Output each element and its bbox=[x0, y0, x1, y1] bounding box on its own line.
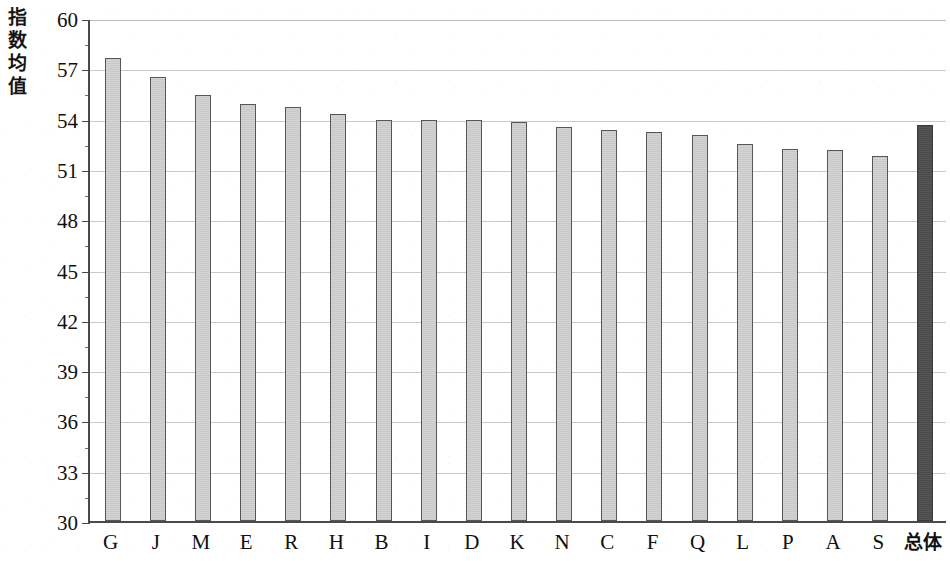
bar bbox=[601, 130, 617, 521]
bar bbox=[556, 127, 572, 521]
bar bbox=[105, 58, 121, 521]
bar bbox=[150, 77, 166, 521]
bar bbox=[917, 125, 933, 521]
bar bbox=[195, 95, 211, 521]
y-axis-tick-label: 36 bbox=[36, 412, 78, 433]
bar bbox=[285, 107, 301, 521]
bar bbox=[240, 104, 256, 521]
bar bbox=[330, 114, 346, 521]
bar bbox=[782, 149, 798, 521]
x-axis-tick-label: 总体 bbox=[904, 529, 942, 555]
x-axis-tick-label: Q bbox=[690, 529, 705, 555]
plot-area bbox=[88, 20, 946, 523]
bar bbox=[692, 135, 708, 521]
bar bbox=[511, 122, 527, 521]
bar bbox=[466, 120, 482, 521]
y-axis-tick-label: 54 bbox=[36, 110, 78, 131]
x-axis-tick-label: N bbox=[555, 529, 570, 555]
x-axis-tick-label: E bbox=[240, 529, 253, 555]
bar-chart-figure: 指 数 均 值 6057545148454239363330 GJMERHBID… bbox=[0, 0, 950, 561]
y-axis-tick-label: 51 bbox=[36, 160, 78, 181]
x-axis-tick-label: G bbox=[103, 529, 118, 555]
y-axis-tick-label: 45 bbox=[36, 261, 78, 282]
y-axis-tick-label: 30 bbox=[36, 513, 78, 534]
bar bbox=[872, 156, 888, 522]
x-axis-tick-label: L bbox=[736, 529, 749, 555]
x-axis-tick-label: D bbox=[464, 529, 479, 555]
y-axis-tick-label: 42 bbox=[36, 311, 78, 332]
y-axis-tick bbox=[82, 523, 90, 524]
bar bbox=[421, 120, 437, 521]
y-axis-title: 指 数 均 值 bbox=[2, 6, 32, 98]
y-axis-tick-label: 48 bbox=[36, 211, 78, 232]
x-axis-tick-label: S bbox=[872, 529, 884, 555]
x-axis-tick-label: I bbox=[423, 529, 430, 555]
bar bbox=[737, 144, 753, 521]
x-axis-tick-label: A bbox=[826, 529, 841, 555]
y-axis-tick-labels: 6057545148454239363330 bbox=[38, 0, 82, 561]
bar bbox=[827, 150, 843, 521]
x-axis-tick-label: F bbox=[647, 529, 659, 555]
y-axis-tick-label: 39 bbox=[36, 362, 78, 383]
y-axis-tick-label: 57 bbox=[36, 60, 78, 81]
bars-layer bbox=[90, 20, 946, 521]
x-axis-tick-label: P bbox=[782, 529, 794, 555]
x-axis-tick-label: R bbox=[284, 529, 298, 555]
x-axis-tick-label: M bbox=[192, 529, 211, 555]
y-axis-tick-label: 33 bbox=[36, 462, 78, 483]
x-axis-tick-label: K bbox=[509, 529, 524, 555]
bar bbox=[376, 120, 392, 521]
x-axis-tick-label: B bbox=[375, 529, 389, 555]
bar bbox=[646, 132, 662, 521]
x-axis-tick-label: J bbox=[152, 529, 160, 555]
x-axis-tick-label: C bbox=[600, 529, 614, 555]
x-axis-tick-label: H bbox=[329, 529, 344, 555]
y-axis-tick-label: 60 bbox=[36, 10, 78, 31]
x-axis-tick-labels: GJMERHBIDKNCFQLPAS总体 bbox=[88, 527, 946, 561]
